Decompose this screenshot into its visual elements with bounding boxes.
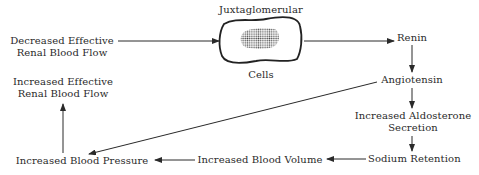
node-increased-renal-blood-flow: Increased Effective Renal Blood Flow	[8, 76, 118, 100]
node-label-line2: Secretion	[354, 122, 472, 134]
node-label-line2: Renal Blood Flow	[6, 47, 118, 59]
node-label-line1: Increased Effective	[8, 76, 118, 88]
node-label-line1: Increased Aldosterone	[354, 110, 472, 122]
node-label-line1: Decreased Effective	[6, 35, 118, 47]
node-juxtaglomerular-label: Juxtaglomerular	[216, 4, 306, 16]
node-cells-label: Cells	[236, 69, 286, 81]
node-sodium-retention: Sodium Retention	[368, 153, 460, 165]
node-angiotensin: Angiotensin	[378, 74, 446, 86]
arrow-angiotensin-to-blood-pressure	[89, 82, 377, 154]
node-label-line2: Renal Blood Flow	[8, 88, 118, 100]
node-increased-aldosterone-secretion: Increased Aldosterone Secretion	[354, 110, 472, 134]
node-increased-blood-pressure: Increased Blood Pressure	[10, 155, 154, 167]
node-decreased-renal-blood-flow: Decreased Effective Renal Blood Flow	[6, 35, 118, 59]
jg-cell-nucleus	[241, 28, 279, 49]
node-renin: Renin	[396, 32, 428, 44]
node-increased-blood-volume: Increased Blood Volume	[196, 154, 324, 166]
